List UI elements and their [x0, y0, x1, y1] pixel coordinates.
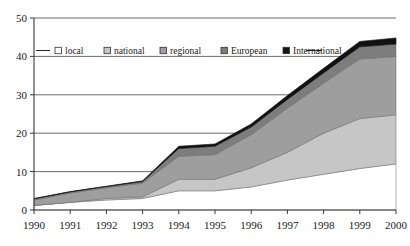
- y-axis-label-20: 20: [16, 127, 28, 139]
- y-axis-label-30: 30: [16, 89, 28, 101]
- legend-swatch-national: [104, 47, 110, 53]
- x-axis-labels-group: 1990199119921993199419951996199719981999…: [23, 219, 408, 231]
- legend-swatch-regional: [160, 47, 166, 53]
- y-axis-label-0: 0: [22, 204, 28, 216]
- legend-swatch-international: [283, 47, 289, 53]
- chart-canvas: 50403020100 1990199119921993199419951996…: [0, 0, 410, 246]
- legend-swatch-european: [221, 47, 227, 53]
- chart-legend: localnationalregionalEuropeanInternation…: [36, 46, 342, 56]
- x-axis-label-1994: 1994: [168, 219, 191, 231]
- x-axis-label-1996: 1996: [240, 219, 263, 231]
- x-axis-label-1995: 1995: [204, 219, 227, 231]
- x-axis-label-1993: 1993: [132, 219, 155, 231]
- legend-swatch-local: [55, 47, 61, 53]
- x-axis-label-1999: 1999: [349, 219, 372, 231]
- stacked-area-chart: 50403020100 1990199119921993199419951996…: [0, 0, 410, 246]
- x-axis-label-1998: 1998: [313, 219, 336, 231]
- x-axis-label-1991: 1991: [59, 219, 81, 231]
- legend-label-local: local: [65, 46, 84, 56]
- y-axis-label-50: 50: [16, 12, 28, 24]
- legend-label-international: International: [293, 46, 342, 56]
- legend-label-european: European: [231, 46, 268, 56]
- legend-label-regional: regional: [170, 46, 201, 56]
- x-axis-label-1997: 1997: [276, 219, 299, 231]
- x-axis-label-1990: 1990: [23, 219, 46, 231]
- legend-label-national: national: [114, 46, 145, 56]
- y-axis-label-10: 10: [16, 166, 28, 178]
- x-axis-label-1992: 1992: [95, 219, 117, 231]
- x-axis-label-2000: 2000: [385, 219, 408, 231]
- y-axis-label-40: 40: [16, 50, 28, 62]
